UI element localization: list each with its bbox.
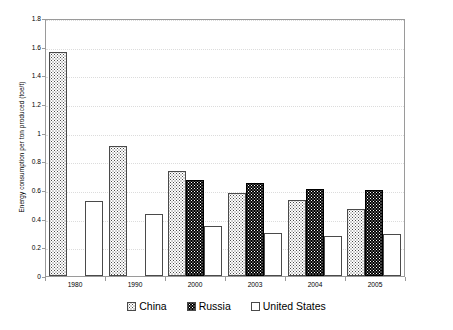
legend-swatch-china: [127, 302, 136, 311]
x-axis-tick-label-1980: 1980: [45, 281, 105, 293]
bar-united-states-1990: [145, 214, 163, 276]
x-axis-tick-mark: [45, 277, 46, 281]
x-axis-tick-label-2003: 2003: [225, 281, 285, 293]
y-axis-tick-label: 0.6: [8, 187, 41, 194]
bar-groups: [46, 20, 404, 276]
bar-group-2003: [225, 20, 285, 276]
x-axis-tick-label-2004: 2004: [285, 281, 345, 293]
bar-group-2005: [344, 20, 404, 276]
bar-china-1990: [109, 146, 127, 276]
bar-group-1990: [106, 20, 166, 276]
legend-item-china[interactable]: China: [127, 300, 166, 312]
y-axis-tick-label: 0.4: [8, 216, 41, 223]
bar-united-states-2000: [204, 226, 222, 276]
x-axis-tick-label-2005: 2005: [345, 281, 405, 293]
plot-area: [45, 19, 405, 277]
chart-figure: Energy consumption per ton produced (toe…: [0, 0, 453, 330]
x-axis-tick-label-1990: 1990: [105, 281, 165, 293]
y-axis-tick-label: 0.2: [8, 244, 41, 251]
x-axis-tick-label-2000: 2000: [165, 281, 225, 293]
legend-swatch-united-states: [251, 302, 260, 311]
y-axis-title: Energy consumption per ton produced (toe…: [16, 18, 28, 276]
bar-china-2003: [228, 193, 246, 276]
plot-inner: [46, 20, 404, 276]
legend-item-russia[interactable]: Russia: [187, 300, 231, 312]
y-axis-tick-mark: [42, 134, 45, 135]
x-axis-tick-mark: [105, 277, 106, 281]
x-axis-tick-mark: [165, 277, 166, 281]
legend-label-united-states: United States: [263, 300, 326, 312]
y-axis-tick-mark: [42, 248, 45, 249]
y-axis-tick-mark: [42, 76, 45, 77]
y-axis-tick-label: 1.8: [8, 15, 41, 22]
bar-group-2000: [165, 20, 225, 276]
bar-russia-2000: [186, 180, 204, 276]
legend-item-united-states[interactable]: United States: [251, 300, 326, 312]
y-axis-tick-mark: [42, 220, 45, 221]
bar-china-2004: [288, 200, 306, 276]
bar-united-states-2003: [264, 233, 282, 276]
y-axis-tick-mark: [42, 48, 45, 49]
bar-group-1980: [46, 20, 106, 276]
y-axis-tick-label: 1: [8, 130, 41, 137]
y-axis-tick-label: 1.4: [8, 72, 41, 79]
y-axis-tick-label: 1.2: [8, 101, 41, 108]
x-axis-tick-mark: [345, 277, 346, 281]
bar-china-2000: [168, 171, 186, 276]
y-axis-tick-mark: [42, 191, 45, 192]
bar-group-2004: [285, 20, 345, 276]
bar-united-states-2005: [383, 234, 401, 276]
legend-label-china: China: [139, 300, 166, 312]
x-axis-tick-labels: 198019902000200320042005: [45, 281, 405, 293]
y-axis-tick-mark: [42, 162, 45, 163]
chart-legend: China Russia United States: [0, 300, 453, 312]
y-axis-tick-label: 1.6: [8, 44, 41, 51]
bar-united-states-2004: [324, 236, 342, 276]
bar-united-states-1980: [85, 201, 103, 276]
legend-swatch-russia: [187, 302, 196, 311]
y-axis-tick-label: 0: [8, 273, 41, 280]
bar-russia-2003: [246, 183, 264, 276]
legend-label-russia: Russia: [199, 300, 231, 312]
x-axis-tick-mark: [285, 277, 286, 281]
bar-russia-2005: [365, 190, 383, 276]
y-axis-tick-label: 0.8: [8, 158, 41, 165]
y-axis-tick-mark: [42, 105, 45, 106]
x-axis-tick-mark: [405, 277, 406, 281]
y-axis-tick-mark: [42, 19, 45, 20]
x-axis-tick-mark: [225, 277, 226, 281]
bar-china-1980: [49, 52, 67, 276]
bar-china-2005: [347, 209, 365, 276]
bar-russia-2004: [306, 189, 324, 276]
